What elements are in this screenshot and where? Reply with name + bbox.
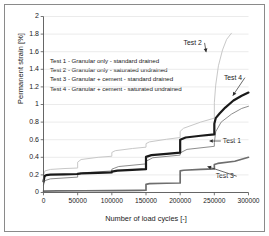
- data-series: [44, 33, 249, 191]
- chart-figure: Permanent strain [%] Number of load cycl…: [0, 0, 269, 236]
- plot-canvas: [0, 0, 269, 236]
- gridlines: [44, 17, 249, 175]
